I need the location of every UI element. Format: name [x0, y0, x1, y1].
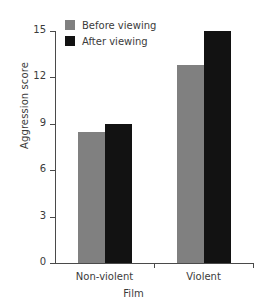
- legend-item-after: After viewing: [65, 33, 156, 49]
- x-axis-category-label: Non-violent: [76, 271, 133, 282]
- legend: Before viewing After viewing: [65, 17, 156, 49]
- legend-item-label: Before viewing: [82, 20, 156, 31]
- bar: [177, 65, 204, 263]
- y-axis-tick-label: 12: [33, 70, 46, 81]
- legend-item-label: After viewing: [82, 36, 148, 47]
- x-axis-label: Film: [0, 288, 267, 299]
- plot-area: 03691215 Non-violentViolent: [55, 31, 253, 263]
- legend-swatch-icon: [65, 36, 75, 46]
- x-axis-tick: [154, 263, 155, 268]
- y-axis-tick: 0: [50, 263, 55, 264]
- y-axis-tick: 12: [50, 77, 55, 78]
- y-axis-tick-label: 15: [33, 24, 46, 35]
- bar: [204, 31, 231, 263]
- y-axis-label: Aggression score: [19, 36, 30, 176]
- y-axis-line: [55, 31, 56, 263]
- bar-chart: Aggression score 03691215 Non-violentVio…: [0, 0, 267, 304]
- bar: [78, 132, 105, 263]
- legend-item-before: Before viewing: [65, 17, 156, 33]
- x-axis-category-label: Violent: [186, 271, 221, 282]
- y-axis-tick: 9: [50, 124, 55, 125]
- y-axis-tick-label: 6: [40, 163, 46, 174]
- y-axis-tick-label: 9: [40, 117, 46, 128]
- y-axis-tick-label: 3: [40, 210, 46, 221]
- x-axis-tick: [253, 263, 254, 268]
- y-axis-tick-label: 0: [40, 256, 46, 267]
- y-axis-tick: 6: [50, 170, 55, 171]
- y-axis-tick: 15: [50, 31, 55, 32]
- bar: [105, 124, 132, 263]
- y-axis-tick: 3: [50, 217, 55, 218]
- legend-swatch-icon: [65, 20, 75, 30]
